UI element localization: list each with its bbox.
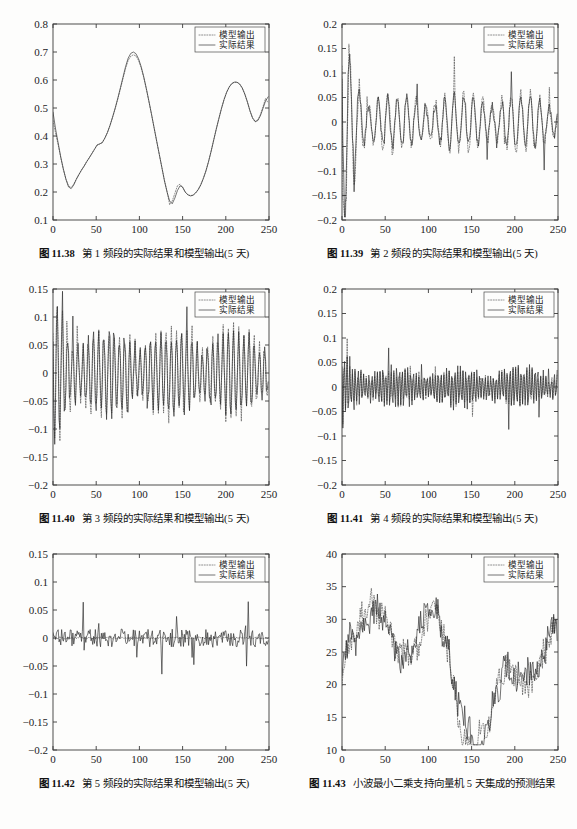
figure-number: 图 11.41 <box>327 513 363 524</box>
figure-plot-area: −0.2−0.15−0.1−0.0500.050.10.150501001502… <box>9 544 279 772</box>
x-tick-label: 200 <box>218 223 235 235</box>
legend-label-model: 模型输出 <box>508 294 544 305</box>
x-tick-label: 100 <box>131 223 148 235</box>
figure-cell: −0.2−0.15−0.1−0.0500.050.10.150.20501001… <box>288 14 577 279</box>
y-tick-label: −0.05 <box>23 395 49 407</box>
figure-caption-text: 第 3 频段的实际结果和模型输出(5 天) <box>82 513 249 524</box>
y-tick-label: 0.1 <box>323 67 337 79</box>
x-tick-label: 150 <box>463 488 480 500</box>
x-tick-label: 0 <box>50 488 56 500</box>
plot-frame <box>53 24 269 220</box>
y-tick-label: 0.3 <box>34 158 48 170</box>
figure-cell: −0.2−0.15−0.1−0.0500.050.10.150.20501001… <box>288 279 577 544</box>
y-tick-label: −0.2 <box>28 744 48 756</box>
x-tick-label: 200 <box>506 223 523 235</box>
figure-caption-text: 第 4 频段的实际结果和模型输出(5 天) <box>370 513 537 524</box>
legend-label-model: 模型输出 <box>219 559 255 570</box>
x-tick-label: 150 <box>463 223 480 235</box>
y-tick-label: 0.05 <box>317 91 337 103</box>
chart-fig-11-40: −0.2−0.15−0.1−0.0500.050.10.150501001502… <box>9 279 279 507</box>
y-tick-label: 35 <box>326 580 338 592</box>
y-tick-label: 0 <box>331 116 337 128</box>
figure-caption-text: 小波最小二乘支持向量机 5 天集成的预测结果 <box>353 778 556 789</box>
series-model-output <box>342 44 557 217</box>
x-tick-label: 50 <box>91 488 103 500</box>
x-tick-label: 200 <box>506 753 523 765</box>
legend-label-model: 模型输出 <box>219 29 255 40</box>
x-tick-label: 100 <box>420 753 437 765</box>
y-tick-label: −0.2 <box>317 479 337 491</box>
figure-cell: 0.10.20.30.40.50.60.70.8050100150200250模… <box>0 14 288 279</box>
x-tick-label: 150 <box>463 753 480 765</box>
y-tick-label: 0.05 <box>29 604 49 616</box>
y-tick-label: 0.05 <box>317 356 337 368</box>
y-tick-label: 0.15 <box>29 548 49 560</box>
legend-label-actual: 实际结果 <box>219 39 255 50</box>
figure-plot-area: −0.2−0.15−0.1−0.0500.050.10.150501001502… <box>9 279 279 507</box>
x-tick-label: 150 <box>174 753 191 765</box>
y-tick-label: 20 <box>326 678 338 690</box>
y-tick-label: 0.2 <box>34 186 48 198</box>
y-tick-label: 0.7 <box>34 46 48 58</box>
y-tick-label: −0.15 <box>23 451 49 463</box>
figure-plot-area: −0.2−0.15−0.1−0.0500.050.10.150.20501001… <box>298 14 568 242</box>
figure-caption: 图 11.40第 3 频段的实际结果和模型输出(5 天) <box>39 510 250 525</box>
figure-caption: 图 11.42第 5 频段的实际结果和模型输出(5 天) <box>39 775 250 790</box>
x-tick-label: 0 <box>339 753 345 765</box>
y-tick-label: 0 <box>331 381 337 393</box>
figure-caption: 图 11.38第 1 频段的实际结果和模型输出(5 天) <box>39 245 250 260</box>
y-tick-label: 25 <box>326 646 338 658</box>
x-tick-label: 0 <box>50 223 56 235</box>
x-tick-label: 100 <box>131 753 148 765</box>
figure-grid: 0.10.20.30.40.50.60.70.8050100150200250模… <box>0 0 577 829</box>
y-tick-label: 15 <box>326 711 338 723</box>
figure-plot-area: 10152025303540050100150200250模型输出实际结果 <box>298 544 568 772</box>
y-tick-label: 0.15 <box>29 283 49 295</box>
series-actual-result <box>53 52 268 204</box>
figure-caption: 图 11.41第 4 频段的实际结果和模型输出(5 天) <box>327 510 538 525</box>
y-tick-label: −0.1 <box>28 688 48 700</box>
y-tick-label: 0.1 <box>34 214 48 226</box>
figure-cell: 10152025303540050100150200250模型输出实际结果图 1… <box>288 544 577 814</box>
y-tick-label: 0 <box>43 632 49 644</box>
x-tick-label: 100 <box>420 488 437 500</box>
plot-frame <box>342 24 558 220</box>
x-tick-label: 250 <box>549 753 566 765</box>
chart-fig-11-39: −0.2−0.15−0.1−0.0500.050.10.150.20501001… <box>298 14 568 242</box>
figure-cell: −0.2−0.15−0.1−0.0500.050.10.150501001502… <box>0 279 288 544</box>
y-tick-label: −0.05 <box>23 660 49 672</box>
x-tick-label: 200 <box>506 488 523 500</box>
legend-label-model: 模型输出 <box>219 294 255 305</box>
series-actual-result <box>342 594 557 745</box>
legend-label-actual: 实际结果 <box>508 304 544 315</box>
y-tick-label: 40 <box>326 548 338 560</box>
x-tick-label: 250 <box>261 223 278 235</box>
series-model-output <box>53 55 268 205</box>
legend-label-model: 模型输出 <box>508 29 544 40</box>
y-tick-label: 0.6 <box>34 74 48 86</box>
x-tick-label: 100 <box>420 223 437 235</box>
x-tick-label: 150 <box>174 223 191 235</box>
x-tick-label: 50 <box>91 223 103 235</box>
y-tick-label: 0.2 <box>323 18 337 30</box>
x-tick-label: 50 <box>379 223 391 235</box>
book-page: 0.10.20.30.40.50.60.70.8050100150200250模… <box>0 0 577 829</box>
x-tick-label: 0 <box>339 223 345 235</box>
figure-plot-area: −0.2−0.15−0.1−0.0500.050.10.150.20501001… <box>298 279 568 507</box>
x-tick-label: 200 <box>218 753 235 765</box>
legend-label-actual: 实际结果 <box>219 569 255 580</box>
y-tick-label: −0.2 <box>317 214 337 226</box>
series-actual-result <box>342 348 557 430</box>
legend-label-model: 模型输出 <box>508 559 544 570</box>
figure-cell: −0.2−0.15−0.1−0.0500.050.10.150501001502… <box>0 544 288 814</box>
legend-label-actual: 实际结果 <box>508 569 544 580</box>
y-tick-label: −0.15 <box>311 189 337 201</box>
figure-number: 图 11.38 <box>39 248 75 259</box>
figure-number: 图 11.43 <box>309 778 345 789</box>
figure-number: 图 11.39 <box>327 248 363 259</box>
y-tick-label: −0.15 <box>311 454 337 466</box>
x-tick-label: 50 <box>379 753 391 765</box>
y-tick-label: −0.05 <box>311 140 337 152</box>
x-tick-label: 0 <box>50 753 56 765</box>
y-tick-label: 0.1 <box>34 576 48 588</box>
